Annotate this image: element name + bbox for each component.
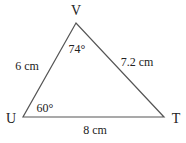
triangle-diagram: V U T 6 cm 7.2 cm 8 cm 74° 60° xyxy=(0,0,186,143)
vertex-label-T: T xyxy=(172,111,181,126)
side-label-VT: 7.2 cm xyxy=(121,55,154,69)
angle-label-V: 74° xyxy=(69,42,86,56)
side-label-UT: 8 cm xyxy=(83,123,107,137)
vertex-label-V: V xyxy=(71,3,81,18)
angle-label-U: 60° xyxy=(37,101,54,115)
vertex-label-U: U xyxy=(6,111,16,126)
side-label-UV: 6 cm xyxy=(15,59,39,73)
